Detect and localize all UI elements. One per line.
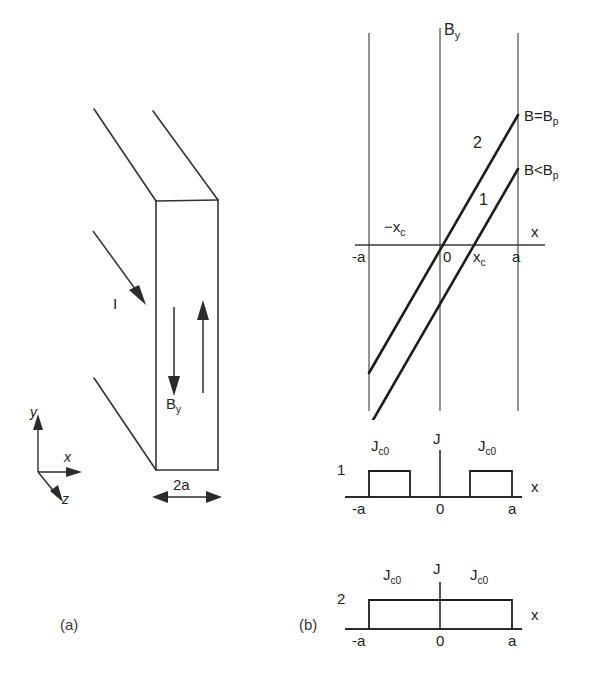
- axis-z-label: z: [62, 492, 69, 506]
- slab-front-face: [156, 200, 218, 470]
- field-curve-2: [369, 115, 518, 373]
- field-axis-label-subscript: y: [455, 29, 460, 41]
- field-curve-1: [369, 169, 518, 420]
- field-arrow-up: [197, 300, 209, 393]
- series-2-label: B=Bp: [524, 108, 558, 127]
- chart2-plateau-label-right: Jc0: [470, 567, 488, 586]
- xtick-minus-xc: −xc: [384, 219, 405, 238]
- chart2-xtick-plus-a: a: [508, 633, 516, 648]
- current-density-chart-1: [300, 430, 591, 530]
- chart2-xtick-minus-a: -a: [352, 633, 365, 648]
- figure-canvas: I By 2a x y z (a) By B=Bp B<Bp 2 1 −xc -…: [0, 0, 591, 676]
- series-1-annotation: 1: [479, 192, 488, 208]
- chart2-x-axis-label: x: [531, 607, 539, 622]
- panel-a-tag: (a): [60, 617, 78, 632]
- chart1-plateau-label-right: Jc0: [478, 438, 496, 457]
- thickness-label: 2a: [173, 477, 190, 492]
- chart2-y-axis-label: J: [433, 561, 441, 576]
- chart2-curve-id: 2: [337, 591, 345, 606]
- field-profile-chart: [300, 0, 591, 420]
- chart1-curve-id: 1: [337, 462, 345, 477]
- chart1-xtick-minus-a: -a: [352, 501, 365, 516]
- xtick-xc: xc: [473, 249, 486, 268]
- field-axis-label: By: [444, 22, 460, 41]
- coordinate-axes-triad: [33, 414, 82, 502]
- current-arrow: [93, 231, 146, 305]
- slab-geometry-drawing: [0, 0, 300, 560]
- axis-y-label: y: [30, 405, 37, 419]
- chart2-plateau-label-left: Jc0: [383, 567, 401, 586]
- chart1-pulse-left: [369, 471, 410, 497]
- field-arrow-down: [168, 307, 180, 396]
- chart1-plateau-label-left: Jc0: [371, 438, 389, 457]
- chart1-xtick-zero: 0: [436, 501, 444, 516]
- chart1-xtick-plus-a: a: [508, 501, 516, 516]
- panel-b-tag: (b): [299, 617, 317, 632]
- slab-bottom-receding-edge: [94, 378, 156, 470]
- current-label: I: [113, 296, 117, 311]
- series-2-annotation: 2: [473, 135, 482, 151]
- series-2-label-subscript: p: [553, 116, 559, 127]
- field-label-subscript: y: [176, 404, 181, 415]
- chart1-x-axis-label: x: [531, 479, 539, 494]
- chart2-xtick-zero: 0: [436, 633, 444, 648]
- series-1-label: B<Bp: [524, 162, 558, 181]
- slab-top-face: [94, 109, 218, 201]
- series-1-label-subscript: p: [553, 170, 559, 181]
- xtick-minus-a: -a: [352, 249, 365, 264]
- xtick-plus-a: a: [512, 249, 520, 264]
- xtick-zero: 0: [443, 249, 451, 264]
- axis-x-label: x: [64, 450, 71, 464]
- field-chart-x-axis-label: x: [531, 224, 539, 239]
- chart1-pulse-right: [470, 471, 512, 497]
- field-label: By: [166, 396, 181, 415]
- chart1-y-axis-label: J: [433, 431, 441, 446]
- current-density-chart-2: [300, 562, 591, 662]
